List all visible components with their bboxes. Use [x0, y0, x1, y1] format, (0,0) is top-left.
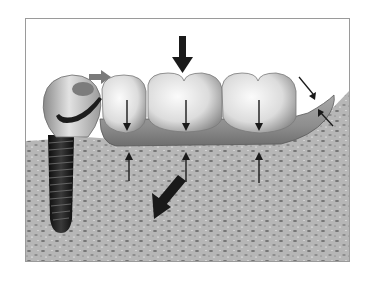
occlusal-load-arrow: [172, 36, 193, 73]
denture-teeth: [102, 73, 296, 133]
dental-implant-denture-diagram: [26, 19, 350, 262]
implant-crown: [43, 75, 102, 137]
illustration-frame: [25, 18, 350, 262]
implant-fixture: [48, 135, 74, 233]
rest-seat: [72, 82, 94, 96]
